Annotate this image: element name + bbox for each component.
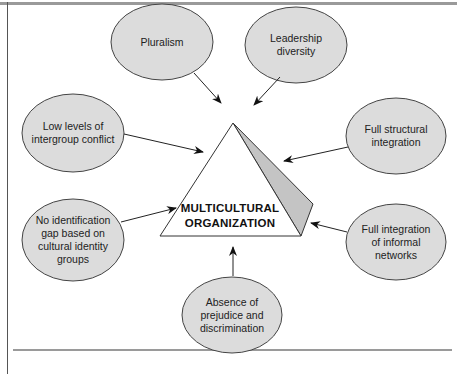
arrow-leadership-diversity bbox=[254, 77, 280, 105]
label-no-prejudice: Absence of prejudice and discrimination bbox=[188, 293, 276, 337]
label-informal-networks: Full integration of informal networks bbox=[358, 220, 434, 264]
label-pluralism: Pluralism bbox=[117, 22, 207, 62]
label-leadership-diversity: Leadership diversity bbox=[256, 25, 336, 65]
label-identification-gap: No identification gap based on cultural … bbox=[27, 212, 119, 268]
arrow-pluralism bbox=[194, 73, 221, 103]
label-low-conflict: Low levels of intergroup conflict bbox=[31, 111, 115, 155]
label-structural-integration: Full structural integration bbox=[356, 116, 436, 156]
arrow-structural-integration bbox=[284, 147, 348, 161]
center-label: MULTICULTURAL ORGANIZATION bbox=[160, 201, 300, 231]
center-label-line2: ORGANIZATION bbox=[160, 216, 300, 231]
arrow-informal-networks bbox=[311, 223, 347, 232]
arrow-low-conflict bbox=[124, 134, 203, 152]
center-label-line1: MULTICULTURAL bbox=[160, 201, 300, 216]
